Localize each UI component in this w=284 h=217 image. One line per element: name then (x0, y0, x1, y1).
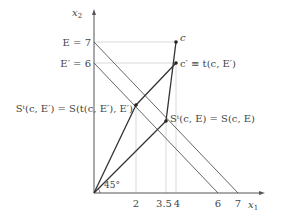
label-c-prime: c′ ≡ t(c, E′) (180, 58, 236, 69)
x-ticks: 2 3.5 4 6 7 (133, 198, 241, 209)
rays (94, 42, 176, 193)
point-c (174, 40, 178, 44)
svg-text:7: 7 (235, 198, 241, 209)
x-axis-arrow-icon (259, 191, 265, 195)
point-c-prime (174, 61, 178, 65)
y-axis-label: x2 (72, 7, 82, 20)
label-S-cEprime: Sᵗ(c, E′) = S(t(c, E′), E′) (16, 103, 133, 114)
point-S-cE (164, 119, 168, 123)
label-E-prime: E′ = 6 (60, 58, 91, 69)
label-c: c (180, 32, 186, 43)
x-axis-label: x1 (248, 199, 258, 212)
y-axis-arrow-icon (92, 9, 96, 15)
svg-text:4: 4 (174, 198, 180, 209)
svg-text:2: 2 (133, 198, 139, 209)
svg-text:6: 6 (215, 198, 221, 209)
guide-lines (94, 42, 176, 193)
angle-label: 45° (104, 180, 120, 190)
label-S-cE: Sᵗ(c, E) = S(c, E) (170, 113, 255, 124)
angle-arc-icon (98, 189, 100, 193)
point-S-cEprime (134, 103, 138, 107)
bargaining-diagram: x2 x1 E = 7 E′ = 6 c c′ ≡ t(c, E′) Sᵗ(c,… (0, 0, 284, 217)
label-E: E = 7 (63, 37, 91, 48)
svg-text:3.5: 3.5 (156, 198, 172, 209)
